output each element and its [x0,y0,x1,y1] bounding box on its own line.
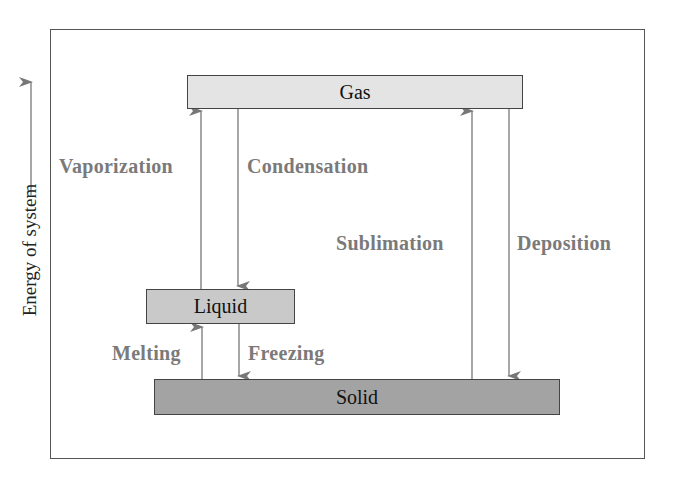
condensation-label: Condensation [247,155,368,178]
liquid-state-box: Liquid [146,289,295,324]
liquid-label: Liquid [194,295,247,318]
solid-state-box: Solid [154,379,560,415]
gas-state-box: Gas [187,75,523,109]
sublimation-label: Sublimation [336,232,444,255]
deposition-label: Deposition [517,232,611,255]
melting-label: Melting [112,342,181,365]
gas-label: Gas [339,81,370,104]
vaporization-label: Vaporization [59,155,173,178]
freezing-label: Freezing [248,342,324,365]
energy-axis-label: Energy of system [19,184,41,317]
solid-label: Solid [336,386,378,409]
